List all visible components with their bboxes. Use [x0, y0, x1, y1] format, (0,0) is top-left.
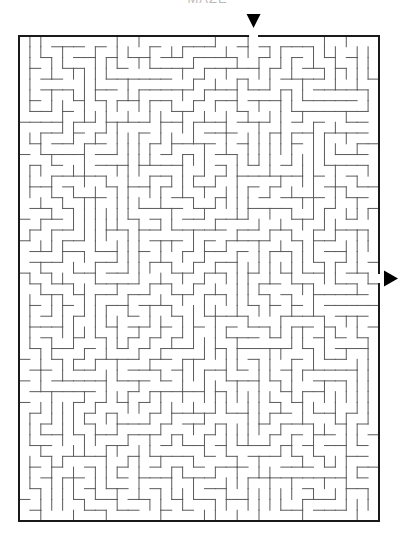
maze-border	[19, 36, 379, 521]
maze-walls	[19, 36, 379, 521]
exit-arrow-icon	[384, 271, 398, 287]
maze[interactable]	[0, 0, 415, 541]
entrance-arrow-icon	[247, 14, 261, 28]
